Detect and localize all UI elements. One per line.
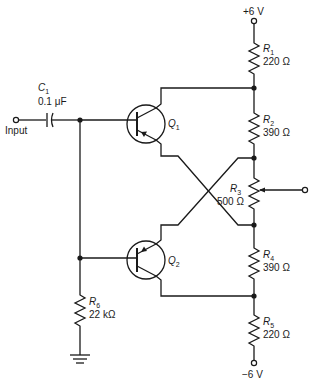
r1-value: 220 Ω [263, 56, 290, 67]
r3-label: R3 [230, 183, 241, 196]
transistor-q2: Q2 [127, 241, 180, 279]
wiper-arrow-icon [259, 188, 265, 193]
c1-value: 0.1 μF [38, 96, 67, 107]
r1-label: R1 [263, 43, 274, 56]
resistor-r6: R6 22 kΩ [75, 292, 116, 329]
positive-supply-label: +6 V [243, 6, 264, 17]
q2-label: Q2 [168, 255, 180, 268]
input-label: Input [5, 125, 27, 136]
r6-value: 22 kΩ [89, 309, 116, 320]
r4-value: 390 Ω [263, 262, 290, 273]
resistor-r5: R5 220 Ω [249, 312, 290, 349]
output-terminal [302, 187, 307, 192]
r4-label: R4 [263, 249, 274, 262]
r2-value: 390 Ω [263, 127, 290, 138]
resistor-r4: R4 390 Ω [249, 245, 290, 282]
resistor-r1: R1 220 Ω [249, 40, 290, 77]
positive-supply-terminal: +6 V [243, 6, 264, 40]
r2-label: R2 [263, 114, 274, 127]
resistor-r2: R2 390 Ω [249, 110, 290, 147]
potentiometer-r3: R3 500 Ω [217, 175, 302, 212]
transistor-q1: Q1 [127, 105, 180, 143]
ground-icon [70, 355, 90, 363]
r5-value: 220 Ω [263, 329, 290, 340]
r6-label: R6 [89, 296, 100, 309]
circuit-schematic: +6 V R1 220 Ω R2 390 Ω R3 500 Ω R [0, 0, 312, 383]
q1-label: Q1 [168, 118, 180, 131]
c1-label: C1 [38, 82, 49, 95]
r5-label: R5 [263, 316, 274, 329]
negative-supply-label: −6 V [242, 369, 263, 380]
negative-supply-terminal: −6 V [242, 360, 263, 380]
